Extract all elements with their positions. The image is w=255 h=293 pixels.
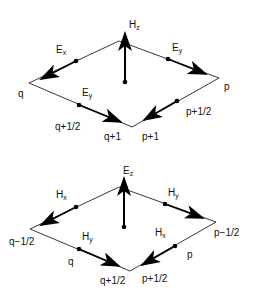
hx-label-top: Hx — [56, 189, 67, 201]
hx-arrow-top — [41, 207, 76, 225]
node-label-right: p — [224, 81, 230, 92]
hy-arrow-top — [165, 204, 203, 218]
hx-arrow-bottom — [142, 246, 175, 265]
node-label-left: q−1/2 — [9, 236, 35, 247]
node-label-right-mid: p — [187, 249, 193, 260]
hy-arrow-bottom — [79, 249, 119, 266]
hy-label-bottom: Hy — [82, 231, 93, 244]
node-label-left: q — [18, 88, 24, 99]
hy-label-top: Hy — [168, 187, 179, 200]
yee-cell-diagram: Hz Ex Ey Ey q p q+1/2 q+1 p+1 p+1/2 Ez H… — [0, 0, 255, 293]
e-field-cell: Ez Hx Hy Hy Hx q−1/2 p−1/2 q q+1/2 p+1/2… — [9, 165, 240, 286]
node-label-bottom-left-mid: q — [68, 256, 74, 267]
node-label-bottom-right: p+1/2 — [142, 273, 168, 284]
node-label-right-mid: p+1/2 — [186, 106, 212, 117]
node-label-bottom: q+1 — [104, 131, 121, 142]
node-label-bottom-left-mid: q+1/2 — [55, 121, 81, 132]
ey-label-bottom: Ey — [82, 87, 93, 100]
node-label-bottom: q+1/2 — [100, 275, 126, 286]
ey-arrow-top — [168, 59, 206, 74]
ey-arrow-bottom — [79, 105, 121, 122]
ey-label-top: Ey — [172, 42, 183, 55]
hz-label: Hz — [129, 19, 140, 31]
node-label-right: p−1/2 — [214, 227, 240, 238]
node-label-bottom-right: p+1 — [142, 131, 159, 142]
ez-label: Ez — [123, 165, 134, 177]
hx-label-bottom: Hx — [155, 227, 166, 239]
ex-label: Ex — [56, 44, 67, 56]
arrow-bottom-right — [144, 101, 177, 120]
h-field-cell: Hz Ex Ey Ey q p q+1/2 q+1 p+1 p+1/2 — [18, 19, 230, 142]
ex-arrow — [41, 61, 76, 79]
